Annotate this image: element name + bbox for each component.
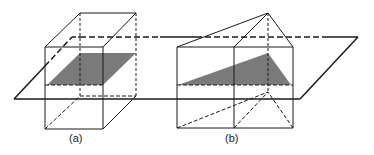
- diagram-canvas: [0, 0, 374, 155]
- label-a: (a): [69, 132, 82, 144]
- cross-section-parallelogram: [47, 53, 136, 85]
- label-b: (b): [225, 132, 238, 144]
